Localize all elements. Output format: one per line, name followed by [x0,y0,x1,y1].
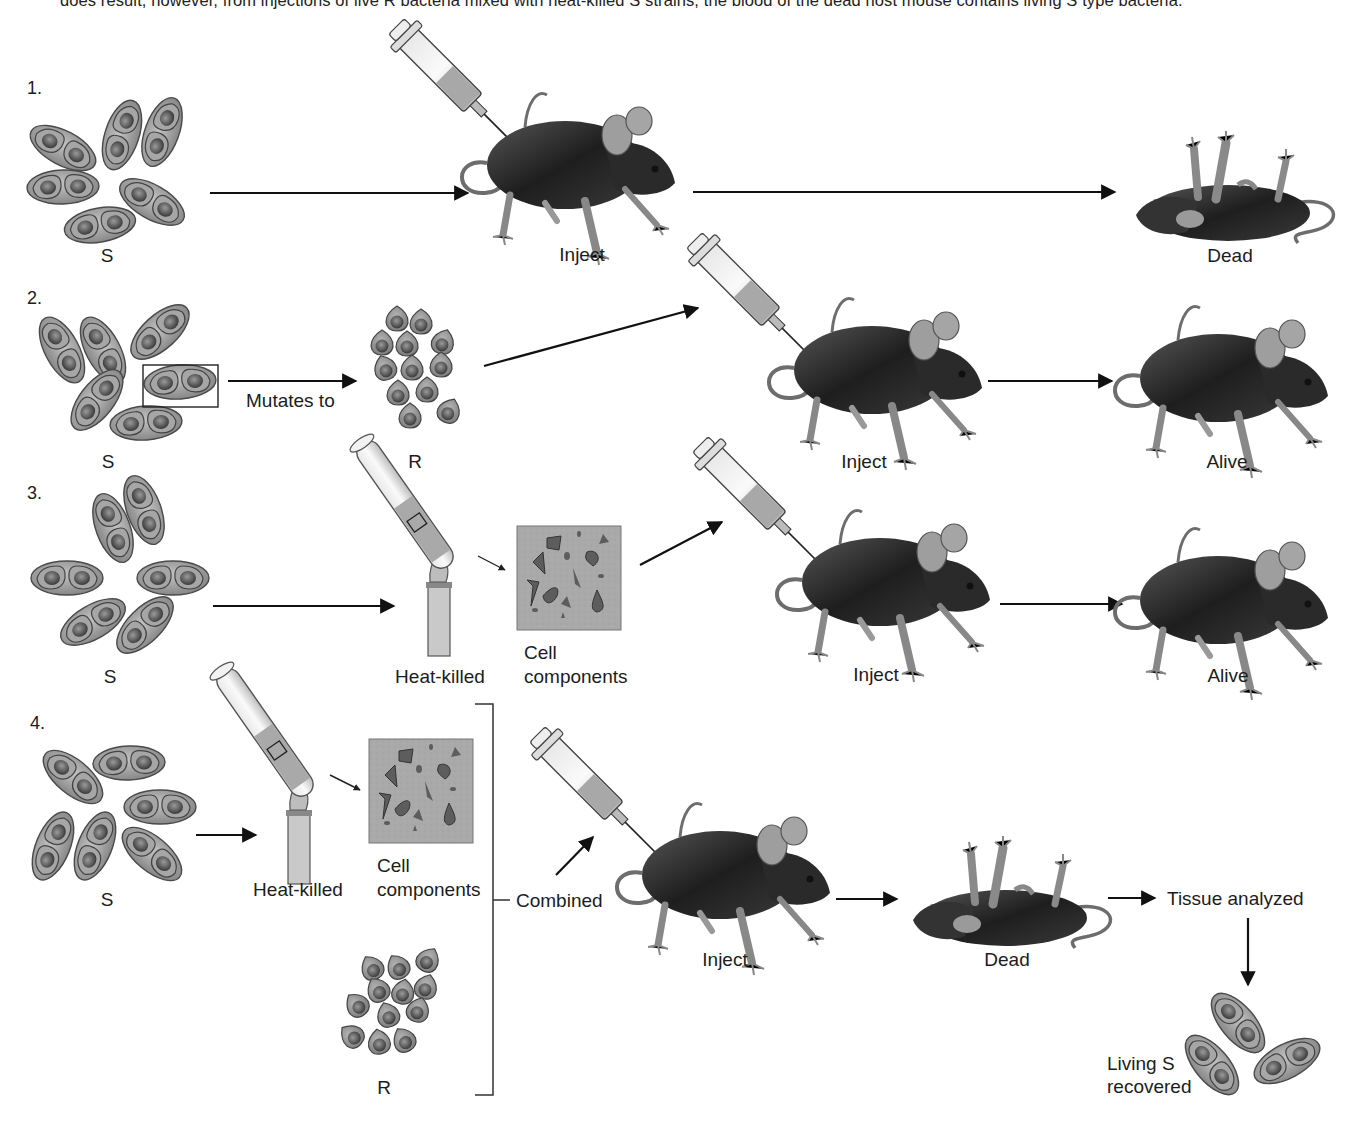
outcome-label: Dead [984,949,1029,971]
components-label-line1: Cell [524,642,557,664]
s-strain-cluster [30,295,218,442]
cell-components-panel [369,739,473,843]
mutation-label: Mutates to [246,390,335,412]
r-strain-cluster [370,306,464,428]
strain-label: S [104,666,117,688]
griffith-experiment-diagram [0,0,1361,1127]
strain-label: S [101,245,114,267]
experiment-1 [23,13,1333,265]
mouse-icon [462,94,675,265]
recovered-label-line1: Living S [1107,1053,1175,1075]
recovered-label-line2: recovered [1107,1076,1192,1098]
s-strain-cluster [23,92,191,248]
recovered-s-cluster [1176,984,1327,1103]
mutant-label: R [408,451,422,473]
arrow [640,522,722,565]
heat-killed-label: Heat-killed [253,879,343,901]
strain-label: S [102,451,115,473]
components-label-line2: components [377,879,481,901]
r-strain-cluster [335,943,444,1056]
inject-label: Inject [841,451,886,473]
arrow [556,837,593,875]
tissue-analyzed-label: Tissue analyzed [1167,888,1304,910]
experiment-number: 1. [27,77,42,99]
s-strain-cluster [31,470,209,662]
zoom-arrow [330,775,360,790]
mutant-label: R [377,1077,391,1099]
inject-label: Inject [702,949,747,971]
zoom-arrow [478,556,505,570]
dead-mouse-icon [913,836,1110,948]
s-strain-cluster [24,741,196,890]
combined-label: Combined [516,890,603,912]
experiment-3 [31,431,1328,700]
experiment-4 [24,659,1327,1104]
experiment-number: 2. [27,287,42,309]
components-label-line1: Cell [377,855,410,877]
outcome-label: Alive [1206,451,1247,473]
experiment-number: 3. [27,482,42,504]
experiment-2 [30,227,1328,478]
outcome-label: Dead [1207,245,1252,267]
heat-killed-tube-icon [348,431,460,656]
experiment-number: 4. [30,712,45,734]
inject-label: Inject [559,244,604,266]
cell-components-panel [517,526,621,630]
dead-mouse-icon [1136,131,1333,243]
strain-label: S [101,889,114,911]
mouse-icon [777,511,990,682]
heat-killed-tube-icon [208,659,320,884]
inject-label: Inject [853,664,898,686]
arrow [484,308,698,366]
mouse-icon [769,299,982,470]
components-label-line2: components [524,666,628,688]
outcome-label: Alive [1207,665,1248,687]
heat-killed-label: Heat-killed [395,666,485,688]
